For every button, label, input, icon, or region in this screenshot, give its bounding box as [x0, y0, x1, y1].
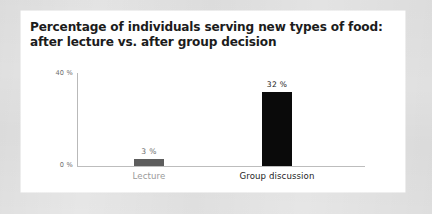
bar-group-discussion[interactable] [262, 92, 292, 166]
category-label-group-discussion: Group discussion [217, 171, 337, 181]
slide-frame: Percentage of individuals serving new ty… [0, 0, 432, 214]
x-axis-line [77, 166, 365, 167]
y-axis-tick-label-0: 0 % [60, 161, 73, 169]
category-label-lecture: Lecture [89, 171, 209, 181]
y-axis-tick-label-40: 40 % [55, 69, 73, 77]
bar-group-lecture: 3 % [89, 37, 209, 166]
chart-plot-area: 40 % 0 % 3 % 32 % Lecture Group discussi… [21, 11, 405, 192]
bar-group-group-discussion: 32 % [217, 37, 337, 166]
bar-value-label-group-discussion: 32 % [267, 80, 288, 89]
bar-lecture[interactable] [134, 159, 164, 166]
y-axis-line [77, 73, 78, 167]
bar-value-label-lecture: 3 % [141, 147, 156, 156]
slide-card: Percentage of individuals serving new ty… [21, 11, 405, 192]
